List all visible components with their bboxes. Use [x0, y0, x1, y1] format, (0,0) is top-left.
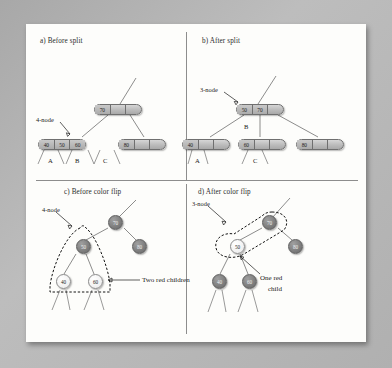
panel-a-root-cell-0: 70: [95, 105, 111, 114]
panel-a-right-node: 80: [118, 139, 166, 150]
panel-b-middle-node: 60: [238, 139, 286, 150]
panel-b-left-node: 40: [182, 139, 230, 150]
panel-a-root-node: 70: [94, 104, 142, 115]
panel-d-root-node: 70: [262, 215, 277, 230]
panel-c-root-node: 70: [108, 215, 123, 230]
panel-a-right-cell-2: [150, 140, 165, 149]
panel-c-root-right-node: 80: [132, 239, 147, 254]
panel-d-caption: d) After color flip: [198, 188, 251, 196]
panel-c-leaf-right-node: 60: [88, 274, 103, 289]
panel-a-right-cell-0: 80: [119, 140, 135, 149]
panel-b-right-cell-2: [328, 140, 343, 149]
panel-b-annotation: 3-node: [200, 86, 218, 93]
panel-a-subtree-b: B: [75, 157, 79, 164]
panel-c-leaf-left-node: 40: [56, 274, 71, 289]
panel-d-leaf-left-node: 40: [212, 274, 227, 289]
panel-b-right-cell-0: 80: [297, 140, 313, 149]
panel-b-root-node: 50 70: [236, 104, 284, 115]
panel-a-root-cell-1: [111, 105, 127, 114]
panel-a-left-cell-0: 40: [39, 140, 55, 149]
panel-b-edges: [186, 24, 366, 180]
panel-b-middle-cell-2: [270, 140, 285, 149]
panel-b-right-node: 80: [296, 139, 344, 150]
panel-d-callout-line2: child: [268, 285, 282, 293]
panel-a-left-cell-1: 50: [55, 140, 71, 149]
panel-b-subtree-a: A: [195, 157, 200, 164]
panel-b-root-cell-0: 50: [237, 105, 253, 114]
panel-d-root-right-node: 80: [288, 239, 303, 254]
panel-c: c) Before color flip 4-node Two red chil…: [26, 182, 186, 334]
panel-c-edges: [26, 182, 186, 334]
figure-page: a) Before split 4-node 70: [26, 24, 366, 342]
panel-b-root-cell-2: [268, 105, 283, 114]
panel-a-caption: a) Before split: [40, 37, 83, 45]
horizontal-divider: [36, 180, 358, 181]
panel-a-subtree-c: C: [103, 157, 107, 164]
panel-b-left-cell-1: [199, 140, 215, 149]
panel-d-leaf-right-node: 60: [242, 274, 257, 289]
panel-b-left-cell-0: 40: [183, 140, 199, 149]
figure-frame: a) Before split 4-node 70: [0, 0, 392, 368]
panel-b-left-cell-2: [214, 140, 229, 149]
panel-d: d) After color flip 3-node One red child: [186, 182, 366, 334]
panel-a-root-cell-2: [126, 105, 141, 114]
panel-b-root-cell-1: 70: [253, 105, 269, 114]
panel-c-caption: c) Before color flip: [64, 188, 121, 196]
panel-a-left-cell-2: 60: [70, 140, 85, 149]
panel-c-inner-node: 50: [76, 239, 91, 254]
panel-d-annotation: 3-node: [192, 200, 210, 207]
panel-c-callout: Two red children: [142, 276, 190, 284]
panel-b-right-cell-1: [313, 140, 329, 149]
panel-d-edges: [186, 182, 366, 334]
panel-b-subtree-b: B: [244, 123, 248, 130]
panel-a-right-cell-1: [135, 140, 151, 149]
panel-d-inner-node: 50: [230, 239, 245, 254]
panel-d-callout-line1: One red: [260, 274, 282, 282]
panel-a-left-node: 40 50 60: [38, 139, 86, 150]
panel-a-subtree-a: A: [48, 157, 53, 164]
panel-c-annotation: 4-node: [42, 206, 60, 213]
panel-a: a) Before split 4-node 70: [26, 24, 186, 180]
panel-a-annotation: 4-node: [36, 116, 54, 123]
panel-b: b) After split 3-node 50 70 40: [186, 24, 366, 180]
panel-b-middle-cell-0: 60: [239, 140, 255, 149]
panel-b-caption: b) After split: [202, 37, 240, 45]
panel-b-middle-cell-1: [255, 140, 271, 149]
panel-b-subtree-c: C: [253, 157, 257, 164]
